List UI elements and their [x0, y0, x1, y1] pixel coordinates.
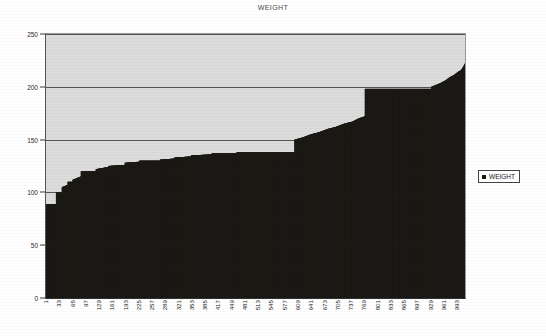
x-axis: 1336597129161193225257289321353385417449…: [45, 300, 466, 336]
x-axis-tick-label: 33: [55, 300, 62, 307]
y-axis-tick-label: 200: [27, 83, 38, 90]
x-axis-tick-label: 513: [254, 300, 261, 310]
x-axis-tick-label: 129: [95, 300, 102, 310]
x-axis-tick-label: 737: [347, 300, 354, 310]
x-axis-tick-label: 1: [42, 300, 49, 303]
x-axis-tick-label: 609: [294, 300, 301, 310]
x-axis-tick-label: 705: [334, 300, 341, 310]
y-axis-tick-mark: [40, 139, 45, 140]
x-axis-tick-label: 641: [307, 300, 314, 310]
x-axis-tick-label: 961: [440, 300, 447, 310]
x-axis-tick-label: 993: [453, 300, 460, 310]
y-axis-tick-mark: [40, 245, 45, 246]
x-axis-tick-label: 161: [108, 300, 115, 310]
x-axis-tick-label: 481: [241, 300, 248, 310]
y-axis-tick-label: 50: [31, 242, 38, 249]
y-axis-tick-label: 250: [27, 31, 38, 38]
y-axis-tick-mark: [40, 192, 45, 193]
y-axis-tick-label: 150: [27, 136, 38, 143]
chart-title: WEIGHT: [0, 4, 546, 11]
x-axis-tick-label: 545: [267, 300, 274, 310]
x-axis-tick-label: 769: [360, 300, 367, 310]
x-axis-tick-label: 193: [122, 300, 129, 310]
x-axis-tick-label: 673: [321, 300, 328, 310]
x-axis-tick-label: 897: [413, 300, 420, 310]
x-axis-tick-label: 801: [374, 300, 381, 310]
y-axis-tick-mark: [40, 34, 45, 35]
x-axis-tick-label: 449: [228, 300, 235, 310]
y-axis-tick-label: 0: [34, 295, 38, 302]
x-axis-tick-label: 929: [427, 300, 434, 310]
y-axis-tick-mark: [40, 86, 45, 87]
x-axis-tick-label: 289: [161, 300, 168, 310]
y-axis: 050100150200250: [0, 33, 45, 299]
x-axis-tick-label: 385: [201, 300, 208, 310]
x-axis-tick-label: 353: [188, 300, 195, 310]
legend-swatch-weight: [482, 175, 486, 179]
x-axis-tick-label: 865: [400, 300, 407, 310]
x-axis-tick-label: 257: [148, 300, 155, 310]
plot-area: [45, 33, 466, 299]
x-axis-tick-label: 97: [82, 300, 89, 307]
x-axis-tick-label: 321: [175, 300, 182, 310]
x-axis-tick-label: 417: [214, 300, 221, 310]
weight-series-bars: [46, 34, 465, 298]
legend: WEIGHT: [478, 170, 520, 183]
x-axis-tick-label: 65: [69, 300, 76, 307]
y-axis-tick-mark: [40, 298, 45, 299]
x-axis-tick-label: 577: [281, 300, 288, 310]
x-axis-tick-label: 225: [135, 300, 142, 310]
x-axis-tick-label: 833: [387, 300, 394, 310]
legend-label-weight: WEIGHT: [489, 173, 515, 180]
y-axis-tick-label: 100: [27, 189, 38, 196]
